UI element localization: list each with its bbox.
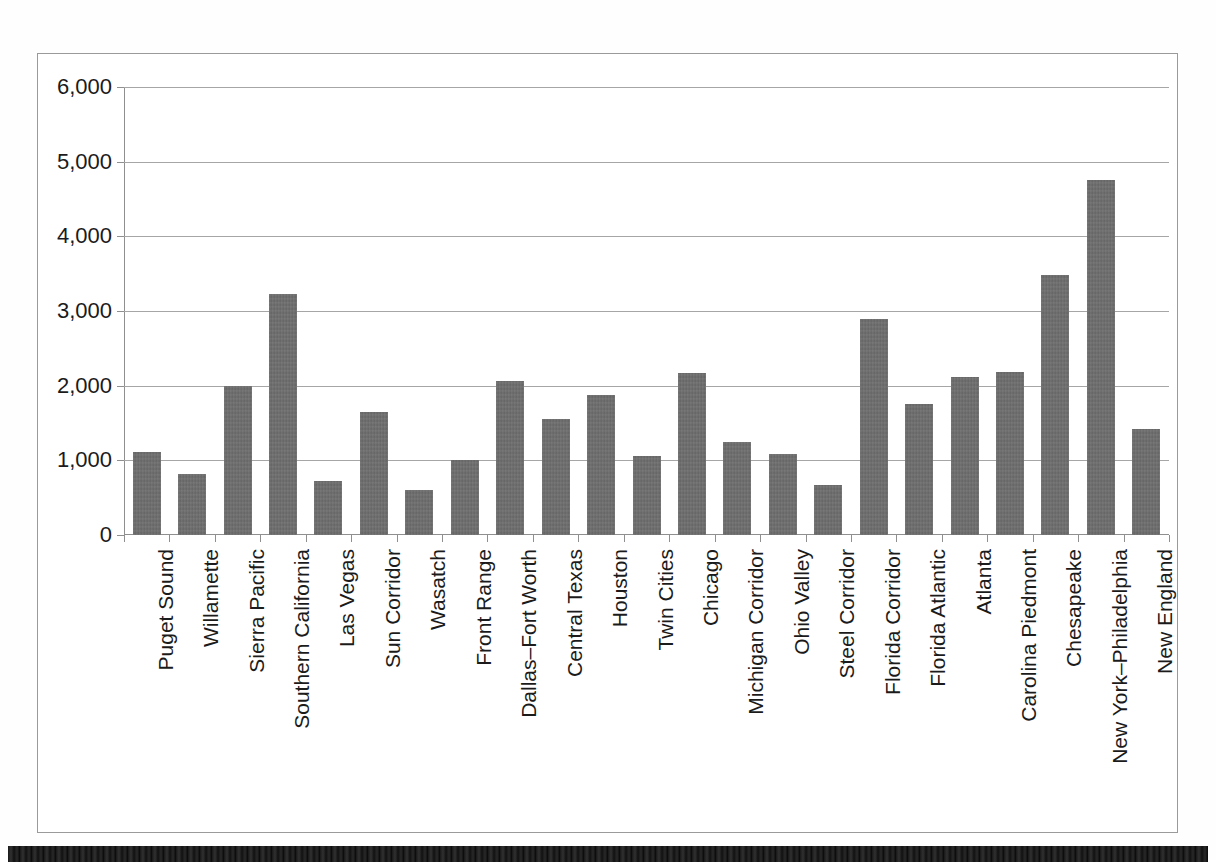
x-tick-mark: [533, 535, 534, 542]
x-axis-category-label: Chicago: [700, 549, 721, 626]
x-axis-category-label: Wasatch: [427, 549, 448, 630]
bar: [360, 412, 388, 535]
bar: [951, 377, 979, 535]
bar: [224, 386, 252, 535]
bar: [633, 456, 661, 535]
x-axis-category-label: Puget Sound: [155, 549, 176, 670]
bar: [678, 373, 706, 535]
bar: [314, 481, 342, 535]
x-axis-category-label: Central Texas: [564, 549, 585, 677]
y-tick-mark: [117, 386, 124, 387]
x-axis-category-label: Florida Corridor: [882, 549, 903, 695]
x-axis-category-label: Florida Atlantic: [927, 549, 948, 687]
x-tick-mark: [1169, 535, 1170, 542]
x-tick-mark: [578, 535, 579, 542]
bar: [178, 474, 206, 535]
y-tick-mark: [117, 87, 124, 88]
bar: [814, 485, 842, 535]
bar: [405, 490, 433, 535]
bar: [905, 404, 933, 535]
x-axis-category-label: Twin Cities: [655, 549, 676, 651]
y-tick-label: 5,000: [57, 149, 112, 175]
y-tick-label: 1,000: [57, 447, 112, 473]
y-tick-mark: [117, 162, 124, 163]
x-tick-mark: [896, 535, 897, 542]
bar: [542, 419, 570, 535]
y-tick-mark: [117, 236, 124, 237]
bar: [133, 452, 161, 535]
x-axis-labels: Puget SoundWillametteSierra PacificSouth…: [124, 549, 1169, 809]
x-axis-category-label: Houston: [609, 549, 630, 627]
x-tick-mark: [669, 535, 670, 542]
y-tick-mark: [117, 311, 124, 312]
bar-series: [124, 87, 1169, 535]
bar: [996, 372, 1024, 535]
x-axis-category-label: Ohio Valley: [791, 549, 812, 655]
x-tick-mark: [487, 535, 488, 542]
x-tick-mark: [215, 535, 216, 542]
x-axis-category-label: Southern California: [291, 549, 312, 729]
x-axis-category-label: Carolina Piedmont: [1018, 549, 1039, 722]
bar: [587, 395, 615, 535]
plot-area: 01,0002,0003,0004,0005,0006,000: [124, 87, 1169, 535]
x-tick-mark: [260, 535, 261, 542]
bar: [860, 319, 888, 535]
x-axis-category-label: Dallas–Fort Worth: [518, 549, 539, 718]
chart-frame: 01,0002,0003,0004,0005,0006,000 Puget So…: [37, 53, 1178, 833]
bar: [1132, 429, 1160, 535]
x-axis-category-label: Michigan Corridor: [745, 549, 766, 715]
x-tick-mark: [169, 535, 170, 542]
x-tick-mark: [1078, 535, 1079, 542]
x-tick-mark: [1033, 535, 1034, 542]
y-tick-label: 4,000: [57, 223, 112, 249]
bar: [769, 454, 797, 535]
bar: [451, 460, 479, 535]
x-tick-mark: [442, 535, 443, 542]
y-tick-label: 0: [100, 522, 112, 548]
x-tick-mark: [987, 535, 988, 542]
x-tick-mark: [624, 535, 625, 542]
x-axis-category-label: Sun Corridor: [382, 549, 403, 668]
scan-edge-artifact: [8, 846, 1208, 862]
x-tick-mark: [306, 535, 307, 542]
y-tick-mark: [117, 460, 124, 461]
x-axis-category-label: New England: [1154, 549, 1175, 674]
x-tick-mark: [851, 535, 852, 542]
x-tick-mark: [351, 535, 352, 542]
x-axis-category-label: New York–Philadelphia: [1109, 549, 1130, 764]
x-tick-mark: [806, 535, 807, 542]
x-tick-mark: [1124, 535, 1125, 542]
bar: [1087, 180, 1115, 535]
y-tick-label: 2,000: [57, 373, 112, 399]
y-tick-label: 3,000: [57, 298, 112, 324]
x-tick-mark: [942, 535, 943, 542]
x-axis-category-label: Steel Corridor: [836, 549, 857, 679]
x-tick-mark: [124, 535, 125, 542]
x-tick-mark: [715, 535, 716, 542]
bar: [496, 381, 524, 535]
x-axis-category-label: Front Range: [473, 549, 494, 666]
x-axis-category-label: Sierra Pacific: [246, 549, 267, 673]
y-tick-mark: [117, 535, 124, 536]
x-tick-mark: [760, 535, 761, 542]
x-axis-category-label: Willamette: [200, 549, 221, 647]
x-tick-mark: [397, 535, 398, 542]
x-axis-category-label: Atlanta: [973, 549, 994, 614]
y-tick-label: 6,000: [57, 74, 112, 100]
bar: [723, 442, 751, 535]
bar: [269, 294, 297, 535]
x-axis-category-label: Chesapeake: [1063, 549, 1084, 667]
x-axis-category-label: Las Vegas: [336, 549, 357, 647]
bar: [1041, 275, 1069, 535]
